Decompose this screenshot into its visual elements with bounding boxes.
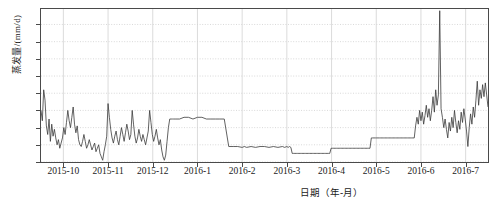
x-tick-label: 2016-7 <box>452 166 479 176</box>
y-tick-mark <box>36 59 40 60</box>
x-tick-label: 2015-10 <box>48 166 80 176</box>
y-tick-mark <box>36 110 40 111</box>
evaporation-time-series-chart: 蒸发量/(mm/d) 日期（年-月） 0.01.02.03.04.05.06.0… <box>0 0 504 205</box>
x-tick-mark <box>197 163 198 167</box>
x-tick-label: 2015-12 <box>137 166 169 176</box>
x-tick-mark <box>376 163 377 167</box>
y-tick-mark <box>36 162 40 163</box>
x-axis-title: 日期（年-月） <box>300 185 363 199</box>
x-tick-mark <box>421 163 422 167</box>
y-tick-mark <box>36 76 40 77</box>
y-tick-mark <box>36 145 40 146</box>
x-tick-mark <box>108 163 109 167</box>
y-tick-mark <box>36 42 40 43</box>
x-tick-mark <box>153 163 154 167</box>
x-tick-label: 2016-3 <box>273 166 300 176</box>
x-tick-label: 2016-6 <box>407 166 434 176</box>
y-tick-mark <box>36 24 40 25</box>
chart-canvas <box>41 9 488 162</box>
y-axis-title: 蒸发量/(mm/d) <box>10 0 23 105</box>
x-tick-label: 2016-4 <box>318 166 345 176</box>
x-tick-mark <box>332 163 333 167</box>
x-tick-mark <box>63 163 64 167</box>
y-tick-mark <box>36 93 40 94</box>
x-tick-mark <box>242 163 243 167</box>
x-tick-label: 2016-1 <box>184 166 211 176</box>
x-tick-mark <box>466 163 467 167</box>
plot-area <box>40 8 489 163</box>
x-tick-label: 2016-5 <box>363 166 390 176</box>
x-tick-label: 2015-11 <box>92 166 123 176</box>
x-tick-label: 2016-2 <box>229 166 256 176</box>
y-tick-mark <box>36 128 40 129</box>
x-tick-mark <box>287 163 288 167</box>
